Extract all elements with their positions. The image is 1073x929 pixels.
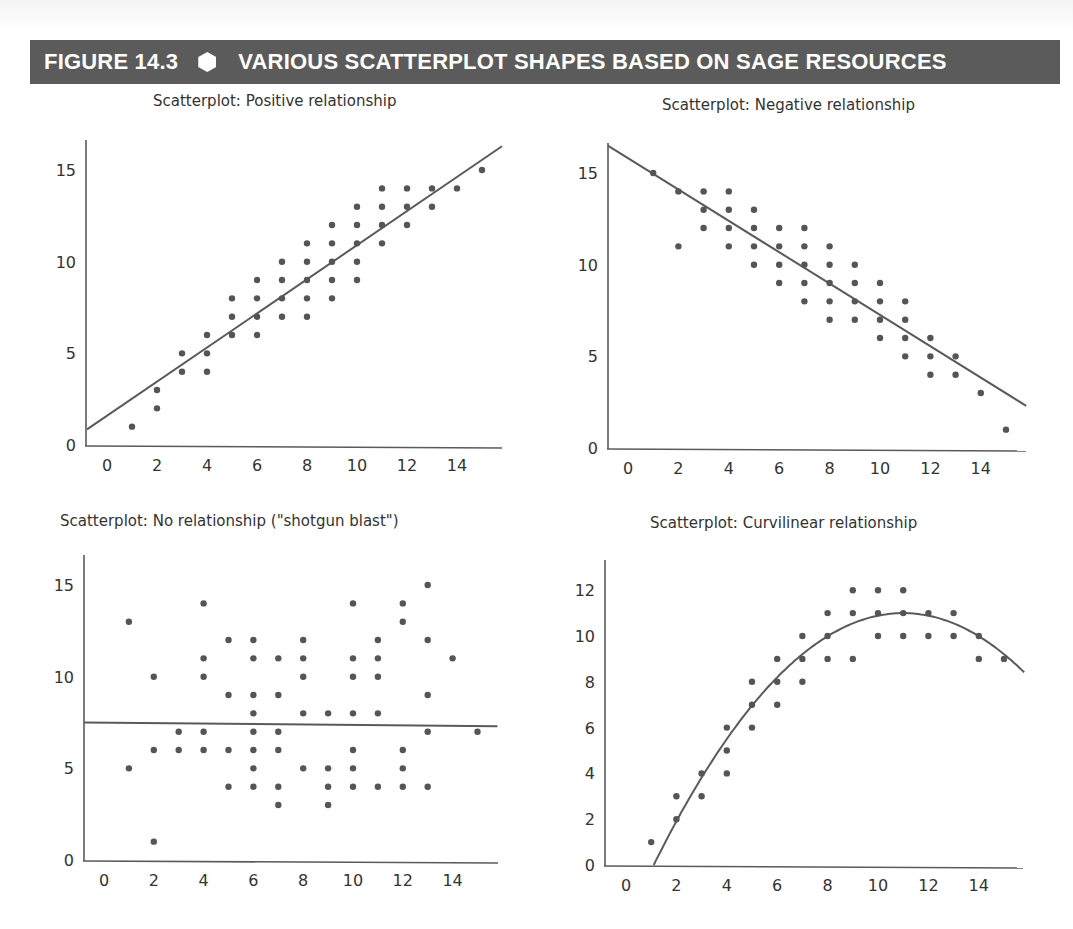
data-point	[877, 298, 883, 304]
data-point	[700, 225, 706, 231]
data-point	[154, 387, 160, 393]
data-point	[325, 765, 331, 771]
data-point	[925, 633, 931, 639]
scatterplot-no-relationship: 02468101214051015	[54, 555, 498, 890]
x-tick-label: 12	[393, 871, 413, 890]
data-point	[751, 207, 757, 213]
data-point	[925, 610, 931, 616]
x-tick-label: 4	[722, 876, 732, 895]
data-point	[325, 802, 331, 808]
data-point	[176, 728, 182, 734]
data-point	[304, 259, 310, 265]
data-point	[151, 674, 157, 680]
x-tick-label: 2	[152, 456, 162, 475]
data-point	[875, 633, 881, 639]
data-point	[350, 783, 356, 789]
data-point	[350, 765, 356, 771]
data-point	[329, 259, 335, 265]
data-point	[200, 674, 206, 680]
data-point	[950, 610, 956, 616]
trend-curve	[654, 613, 1024, 865]
data-point	[749, 679, 755, 685]
data-point	[950, 633, 956, 639]
data-point	[375, 655, 381, 661]
x-tick-label: 6	[252, 456, 262, 475]
trend-line	[87, 146, 502, 429]
x-axis	[85, 446, 502, 448]
scatterplot-negative: 02468101214051015	[578, 143, 1027, 478]
data-point	[375, 710, 381, 716]
data-point	[749, 724, 755, 730]
data-point	[700, 188, 706, 194]
data-point	[799, 679, 805, 685]
x-tick-label: 4	[202, 456, 212, 475]
data-point	[776, 243, 782, 249]
data-point	[379, 204, 385, 210]
data-point	[648, 839, 654, 845]
scatterplot-curvilinear: 02468101214024681012	[575, 560, 1025, 895]
y-tick-label: 5	[588, 347, 598, 366]
x-tick-label: 10	[868, 876, 888, 895]
data-point	[304, 313, 310, 319]
data-point	[275, 802, 281, 808]
data-point	[479, 167, 485, 173]
data-point	[927, 371, 933, 377]
data-point	[1003, 426, 1009, 432]
data-point	[350, 674, 356, 680]
x-tick-label: 12	[397, 456, 417, 475]
data-point	[927, 353, 933, 359]
x-tick-label: 12	[920, 459, 940, 478]
data-point	[902, 335, 908, 341]
data-point	[200, 747, 206, 753]
x-tick-label: 4	[199, 871, 209, 890]
data-point	[425, 692, 431, 698]
data-point	[126, 619, 132, 625]
data-point	[751, 243, 757, 249]
data-point	[826, 262, 832, 268]
scatterplot-positive: 02468101214051015	[56, 140, 502, 475]
data-point	[799, 656, 805, 662]
x-tick-label: 6	[248, 871, 258, 890]
data-point	[354, 259, 360, 265]
data-point	[354, 204, 360, 210]
y-tick-label: 15	[578, 164, 598, 183]
x-tick-label: 2	[149, 871, 159, 890]
data-point	[225, 637, 231, 643]
data-point	[902, 316, 908, 322]
y-tick-label: 0	[585, 856, 595, 875]
data-point	[852, 262, 858, 268]
x-tick-label: 14	[447, 456, 467, 475]
data-point	[250, 710, 256, 716]
y-tick-label: 12	[575, 581, 595, 600]
data-point	[200, 600, 206, 606]
data-point	[978, 390, 984, 396]
data-point	[304, 240, 310, 246]
data-point	[751, 262, 757, 268]
y-tick-label: 10	[56, 253, 76, 272]
x-axis	[83, 861, 498, 863]
data-point	[826, 316, 832, 322]
data-point	[300, 655, 306, 661]
x-tick-label: 6	[774, 459, 784, 478]
data-point	[877, 316, 883, 322]
data-point	[329, 277, 335, 283]
data-point	[354, 222, 360, 228]
data-point	[774, 702, 780, 708]
y-tick-label: 8	[585, 673, 595, 692]
x-tick-label: 0	[102, 456, 112, 475]
data-point	[279, 295, 285, 301]
y-tick-label: 10	[575, 627, 595, 646]
data-point	[350, 747, 356, 753]
data-point	[824, 656, 830, 662]
data-point	[300, 674, 306, 680]
data-point	[325, 783, 331, 789]
x-axis	[607, 449, 1026, 451]
data-point	[976, 656, 982, 662]
data-point	[801, 225, 807, 231]
data-point	[350, 655, 356, 661]
data-point	[254, 295, 260, 301]
data-point	[425, 728, 431, 734]
data-point	[976, 633, 982, 639]
y-tick-label: 4	[585, 764, 595, 783]
y-tick-label: 6	[585, 719, 595, 738]
